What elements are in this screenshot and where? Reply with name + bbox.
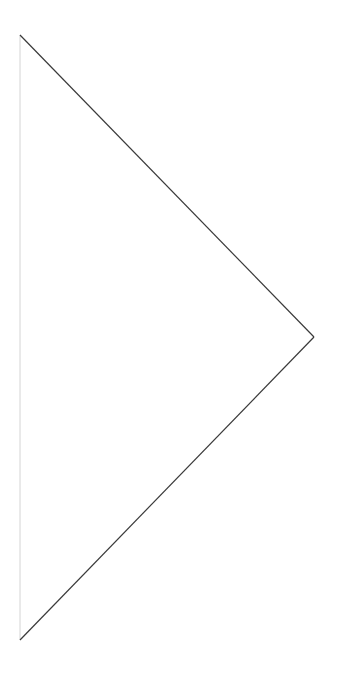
play-triangle-outline-icon[interactable] <box>0 0 338 674</box>
upper-diagonal-edge <box>20 35 314 337</box>
canvas <box>0 0 338 674</box>
lower-diagonal-edge <box>20 337 314 640</box>
